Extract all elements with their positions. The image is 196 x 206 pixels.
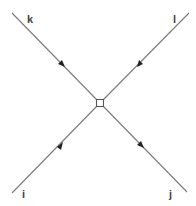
leg-i-line	[12, 106, 97, 193]
label-k: k	[27, 14, 33, 25]
leg-l-line	[103, 13, 189, 100]
feynman-diagram	[0, 0, 196, 206]
vertex-square-icon	[97, 100, 104, 107]
label-j: j	[169, 189, 172, 200]
leg-k-line	[12, 13, 97, 100]
label-i: i	[22, 189, 25, 200]
label-l: l	[173, 14, 176, 25]
leg-j-line	[103, 106, 187, 192]
